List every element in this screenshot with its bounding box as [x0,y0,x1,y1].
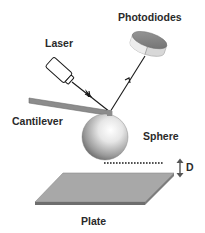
photodiode-detector-icon [128,28,169,60]
double-arrow-icon [177,159,184,178]
label-plate: Plate [81,216,106,227]
label-sphere: Sphere [143,131,179,142]
label-laser: Laser [45,38,73,49]
laser-source-icon [45,57,75,86]
label-cantilever: Cantilever [12,116,63,127]
reflected-beam-arrow-icon [110,56,145,112]
plate-icon [35,173,174,205]
label-distance-d: D [186,162,194,173]
sphere-icon [82,110,128,160]
cantilever-beam-icon [29,98,112,116]
label-photodiodes: Photodiodes [118,12,182,23]
